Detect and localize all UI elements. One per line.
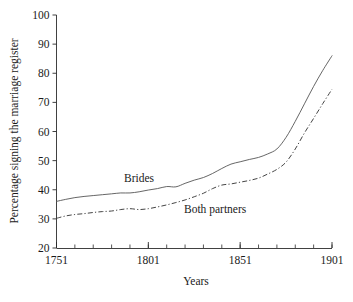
- y-axis-title: Percentage signing the marriage register: [8, 38, 21, 223]
- y-tick-label: 60: [38, 126, 50, 138]
- y-tick-label: 20: [38, 242, 50, 254]
- y-tick-label: 100: [32, 9, 50, 21]
- x-tick-label: 1901: [321, 254, 344, 266]
- y-tick-label: 40: [38, 184, 50, 196]
- y-tick-label: 80: [38, 67, 50, 79]
- y-tick-label: 50: [38, 155, 50, 167]
- x-tick-label: 1851: [229, 254, 252, 266]
- y-tick-label: 90: [38, 38, 50, 50]
- x-tick-label: 1801: [137, 254, 160, 266]
- y-tick-label: 70: [38, 96, 50, 108]
- line-chart-svg: 2030405060708090100 1751180118511901 Bri…: [0, 0, 353, 302]
- series-label-brides: Brides: [124, 172, 155, 184]
- series-label-both-partners: Both partners: [184, 203, 247, 216]
- chart-figure: 2030405060708090100 1751180118511901 Bri…: [0, 0, 353, 302]
- y-tick-label: 30: [38, 213, 50, 225]
- x-axis-title: Years: [183, 275, 209, 287]
- x-tick-label: 1751: [45, 254, 68, 266]
